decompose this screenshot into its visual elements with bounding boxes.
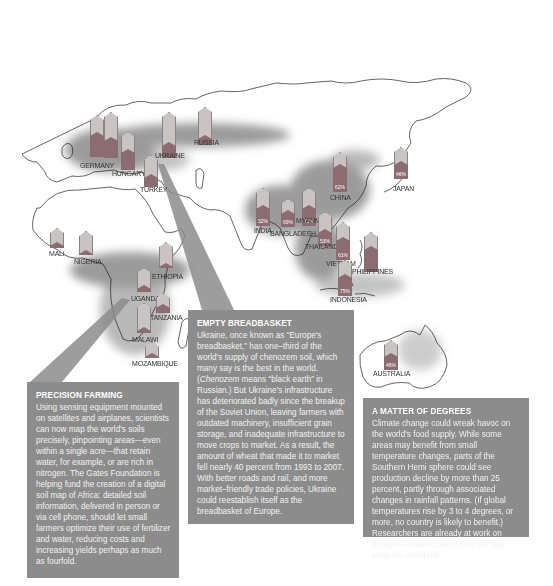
country-label: CHINA: [330, 194, 351, 201]
callout-matter-of-degrees: A MATTER OF DEGREES Climate change could…: [363, 398, 529, 537]
marker-japan: 46%: [394, 147, 408, 179]
callout-body: Ukraine, once known as “Europe's breadba…: [197, 330, 346, 517]
country-label: TANZANIA: [150, 314, 183, 321]
marker-uk-area: [104, 112, 118, 158]
country-label: UKRAINE: [155, 152, 185, 159]
marker-indonesia: 75%: [338, 260, 352, 296]
country-label: HUNGARY: [112, 170, 145, 177]
marker-tanzania: [156, 293, 170, 313]
country-label: BANGLADESH: [270, 230, 316, 237]
country-label: AUSTRALIA: [373, 370, 410, 377]
marker-malawi: [137, 303, 151, 333]
country-label: TURKEY: [140, 186, 167, 193]
marker-percent: 32%: [256, 218, 270, 224]
marker-percent: 62%: [333, 184, 347, 190]
marker-australia: 46%: [384, 340, 398, 370]
marker-india: 32%: [256, 188, 270, 226]
callout-title: A MATTER OF DEGREES: [372, 406, 521, 417]
marker-mali: [50, 228, 64, 248]
country-label: THAILAND: [305, 243, 338, 250]
country-label: PHILIPPINES: [352, 268, 393, 275]
callout-precision-farming: PRECISION FARMING Using sensing equipmen…: [27, 382, 179, 578]
marker-bangladesh: 69%: [281, 199, 295, 227]
bar-fill: [90, 132, 104, 157]
marker-uganda: [137, 268, 151, 292]
marker-percent: 46%: [384, 362, 398, 368]
marker-thailand: 53%: [318, 212, 332, 246]
marker-percent: 46%: [394, 171, 408, 177]
callout-title: EMPTY BREADBASKET: [197, 318, 346, 329]
callout-title: PRECISION FARMING: [36, 390, 171, 401]
marker-mozambique: [145, 342, 159, 358]
country-label: ETHIOPIA: [152, 273, 183, 280]
country-label: MOZAMBIQUE: [132, 360, 178, 367]
bar-fill: [121, 149, 135, 170]
marker-vietnam: 61%: [336, 222, 350, 260]
marker-philippines: [364, 232, 378, 272]
country-label: INDONESIA: [330, 296, 367, 303]
country-label: NIGERIA: [74, 258, 101, 265]
callout-body: Climate change could wreak havoc on the …: [372, 418, 521, 561]
country-label: MALI: [49, 250, 65, 257]
marker-percent: 61%: [336, 252, 350, 258]
breadbasket-pointer: [158, 164, 234, 310]
callout-body: Using sensing equipment mounted on satel…: [36, 402, 171, 567]
marker-percent: 75%: [338, 288, 352, 294]
bar-fill: [104, 137, 118, 158]
marker-nigeria: [79, 231, 93, 255]
country-label: RUSSIA: [194, 139, 219, 146]
country-label: GERMANY: [80, 162, 114, 169]
marker-ethiopia: [159, 242, 173, 268]
callout-empty-breadbasket: EMPTY BREADBASKET Ukraine, once known as…: [188, 310, 354, 524]
marker-hungary: [121, 132, 135, 170]
marker-percent: 69%: [281, 219, 295, 225]
marker-germany: [90, 115, 104, 157]
marker-turkey: [144, 155, 158, 187]
country-label: JAPAN: [393, 185, 414, 192]
marker-china: 62%: [333, 152, 347, 192]
